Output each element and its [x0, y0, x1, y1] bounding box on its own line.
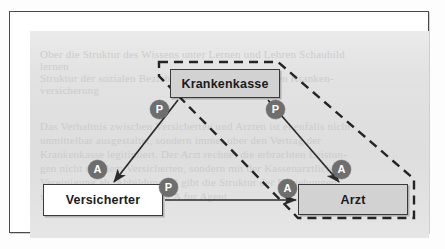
node-arzt-label: Arzt [340, 193, 365, 207]
figure-frame: Ober die Struktur des Wissens unter Lern… [9, 11, 429, 233]
node-versicherter[interactable]: Versicherter [43, 184, 163, 216]
node-arzt[interactable]: Arzt [298, 184, 408, 215]
node-krankenkasse-label: Krankenkasse [181, 77, 268, 91]
diagram-figure: Ober die Struktur des Wissens unter Lern… [0, 0, 445, 249]
badge-p-versicherter-arzt: P [159, 178, 178, 197]
badge-a-krankenkasse-versicherter: A [88, 160, 107, 179]
badge-p-krankenkasse-versicherter: P [150, 100, 169, 119]
node-versicherter-label: Versicherter [66, 193, 141, 207]
badge-a-versicherter-arzt: A [278, 179, 297, 198]
badge-a-krankenkasse-arzt: A [332, 160, 351, 179]
badge-p-krankenkasse-arzt: P [266, 100, 285, 119]
node-krankenkasse[interactable]: Krankenkasse [170, 69, 280, 98]
